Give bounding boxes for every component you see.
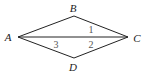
vertex-label-a: A [4,31,12,43]
vertex-label-c: C [133,32,141,44]
vertex-label-d: D [68,61,77,73]
vertex-label-b: B [70,2,77,14]
angle-label-2: 2 [89,39,94,50]
edge-bc [74,16,128,37]
diagram-canvas: A B C D 1 3 2 [0,0,146,73]
angle-label-3: 3 [54,39,59,50]
edge-da [18,37,74,58]
edge-cd [74,37,128,58]
edge-ab [18,16,74,37]
angle-label-1: 1 [89,24,94,35]
